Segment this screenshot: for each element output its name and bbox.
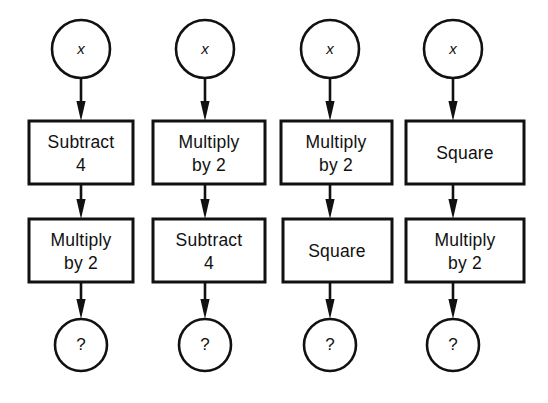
flow-chain-1: x Subtract 4 Multiply by 2 ? bbox=[29, 20, 133, 371]
arrow-3-c bbox=[325, 282, 334, 319]
down-arrow-icon bbox=[448, 299, 457, 319]
flow-chain-2: x Multiply by 2 Subtract 4 ? bbox=[153, 20, 265, 371]
flow-chain-4: x Square Multiply by 2 ? bbox=[406, 20, 524, 371]
arrow-4-b bbox=[448, 184, 457, 219]
process-box-label-1-1-line2: 4 bbox=[76, 155, 86, 175]
down-arrow-icon bbox=[200, 101, 209, 121]
arrow-2-c bbox=[200, 282, 209, 319]
diagram-canvas: x Subtract 4 Multiply by 2 ? bbox=[0, 0, 548, 403]
process-box-label-1-1-line1: Subtract bbox=[48, 132, 115, 152]
output-circle-label-4: ? bbox=[448, 335, 457, 354]
process-box-label-3-1-line2: by 2 bbox=[319, 155, 353, 175]
down-arrow-icon bbox=[448, 199, 457, 219]
process-box-label-3-2-line1: Square bbox=[308, 241, 366, 261]
arrow-2-b bbox=[200, 184, 209, 219]
process-box-label-4-2-line2: by 2 bbox=[448, 253, 482, 273]
arrow-1-a bbox=[76, 78, 85, 121]
arrow-4-a bbox=[448, 78, 457, 121]
process-box-label-3-1-line1: Multiply bbox=[306, 132, 367, 152]
process-box-label-4-2-line1: Multiply bbox=[435, 230, 496, 250]
flow-chain-3: x Multiply by 2 Square ? bbox=[281, 20, 392, 371]
process-box-label-4-1-line1: Square bbox=[436, 143, 494, 163]
output-circle-label-3: ? bbox=[325, 335, 334, 354]
down-arrow-icon bbox=[200, 299, 209, 319]
process-box-label-2-1-line2: by 2 bbox=[192, 155, 226, 175]
process-box-label-2-1-line1: Multiply bbox=[179, 132, 240, 152]
down-arrow-icon bbox=[76, 299, 85, 319]
down-arrow-icon bbox=[76, 199, 85, 219]
down-arrow-icon bbox=[448, 101, 457, 121]
arrow-3-b bbox=[325, 184, 334, 219]
process-box-label-2-2-line1: Subtract bbox=[176, 230, 243, 250]
flowchart-svg: x Subtract 4 Multiply by 2 ? bbox=[0, 0, 548, 403]
down-arrow-icon bbox=[325, 101, 334, 121]
down-arrow-icon bbox=[76, 101, 85, 121]
input-circle-label-2: x bbox=[200, 40, 209, 57]
down-arrow-icon bbox=[325, 199, 334, 219]
arrow-2-a bbox=[200, 78, 209, 121]
process-box-label-2-2-line2: 4 bbox=[204, 253, 214, 273]
input-circle-label-4: x bbox=[448, 40, 457, 57]
arrow-4-c bbox=[448, 282, 457, 319]
process-box-label-1-2-line2: by 2 bbox=[64, 253, 98, 273]
down-arrow-icon bbox=[200, 199, 209, 219]
arrow-1-b bbox=[76, 184, 85, 219]
input-circle-label-3: x bbox=[325, 40, 334, 57]
down-arrow-icon bbox=[325, 299, 334, 319]
output-circle-label-1: ? bbox=[76, 335, 85, 354]
arrow-3-a bbox=[325, 78, 334, 121]
input-circle-label-1: x bbox=[76, 40, 85, 57]
output-circle-label-2: ? bbox=[200, 335, 209, 354]
arrow-1-c bbox=[76, 282, 85, 319]
process-box-label-1-2-line1: Multiply bbox=[51, 230, 112, 250]
